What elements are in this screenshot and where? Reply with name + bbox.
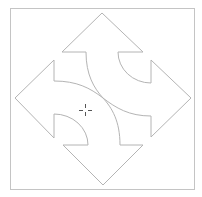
- outer-frame: [11, 9, 195, 190]
- arrow-up-icon: [62, 13, 191, 137]
- crosshair-icon: [79, 104, 92, 116]
- diagram-canvas: [0, 0, 202, 197]
- arrow-left-icon: [15, 60, 143, 185]
- arrow-left-shaft-curve: [54, 81, 151, 116]
